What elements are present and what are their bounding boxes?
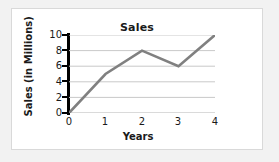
x-tick-label: 0 [60, 117, 78, 127]
x-tick-label: 4 [206, 117, 224, 127]
x-axis-tick-labels: 0 1 2 3 4 [12, 9, 264, 151]
x-axis-title: Years [58, 131, 218, 142]
x-tick-label: 2 [133, 117, 151, 127]
x-tick-label: 3 [169, 117, 187, 127]
chart-screenshot: Sales Sales (in Millions) 10 8 6 4 2 0 [0, 0, 279, 162]
chart-card: Sales Sales (in Millions) 10 8 6 4 2 0 [11, 8, 263, 150]
x-tick-label: 1 [96, 117, 114, 127]
